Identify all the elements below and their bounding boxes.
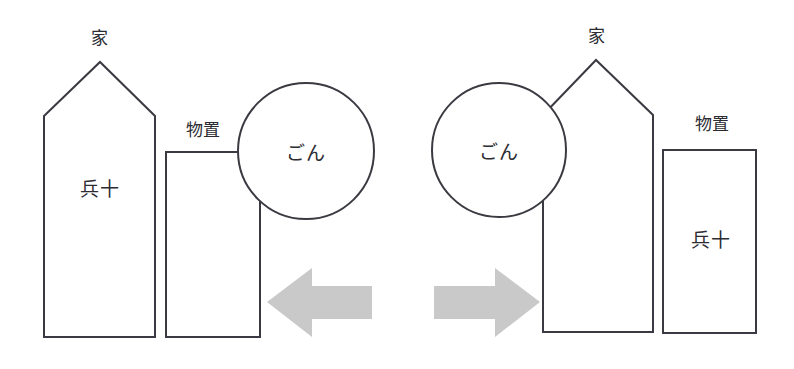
right-circle-occupant-label: ごん [479,141,519,163]
left-house-caption: 家 [91,28,108,48]
left-circle-occupant-label: ごん [286,142,326,164]
diagram-canvas: 家 兵十 物置 ごん 家 ごん 物置 [0,0,794,369]
left-shed-caption: 物置 [186,120,220,140]
right-scene: 家 ごん 物置 兵十 [432,26,756,337]
left-house-occupant-label: 兵十 [80,178,120,200]
right-pointing-arrow-icon [434,268,540,337]
left-scene: 家 兵十 物置 ごん [44,28,374,337]
right-shed-occupant-label: 兵十 [691,229,731,251]
scene-comparison-diagram: 家 兵十 物置 ごん 家 ごん 物置 [0,0,794,369]
right-shed-caption: 物置 [695,114,729,134]
right-house-shape [543,60,653,332]
right-house-caption: 家 [588,26,605,46]
left-pointing-arrow-icon [267,268,372,337]
